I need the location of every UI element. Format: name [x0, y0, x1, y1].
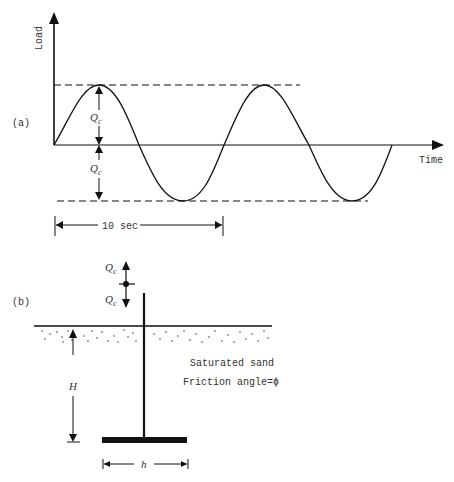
arrow-down-icon	[95, 192, 103, 200]
depth-label: H	[68, 380, 78, 392]
arrow-right-icon	[181, 461, 187, 467]
panel-b-label: (b)	[12, 297, 30, 308]
qc-bottom-label: Qc	[90, 162, 102, 177]
panel-a: (a) Load Time Qc Qc 10 sec	[12, 12, 444, 236]
arrow-down-icon	[122, 299, 130, 308]
friction-label: Friction angle=ϕ	[183, 377, 279, 388]
arrow-up-icon	[95, 86, 103, 94]
panel-a-label: (a)	[12, 118, 30, 129]
arrow-down-icon	[69, 434, 77, 442]
anchor-plate	[102, 437, 187, 443]
qc-top-label: Qc	[90, 111, 102, 126]
load-point	[123, 281, 129, 287]
load-up-label: Qc	[105, 261, 117, 276]
arrow-down-icon	[95, 137, 103, 145]
panel-b: (b) Qc Qc	[12, 261, 279, 470]
load-down-label: Qc	[105, 293, 117, 308]
arrow-right-icon	[215, 221, 222, 229]
load-axis-arrow-icon	[49, 12, 59, 24]
time-axis-arrow-icon	[432, 140, 444, 150]
width-label: h	[141, 458, 147, 470]
figure-canvas: (a) Load Time Qc Qc 10 sec	[0, 0, 454, 482]
time-axis-label: Time	[419, 155, 443, 166]
soil-label: Saturated sand	[190, 358, 274, 369]
period-label: 10 sec	[102, 221, 138, 232]
arrow-up-icon	[122, 261, 130, 270]
arrow-up-icon	[69, 329, 77, 338]
arrow-left-icon	[56, 221, 63, 229]
sine-wave	[54, 85, 392, 201]
load-axis-label: Load	[34, 26, 45, 50]
arrow-left-icon	[104, 461, 110, 467]
arrow-up-icon	[95, 145, 103, 153]
